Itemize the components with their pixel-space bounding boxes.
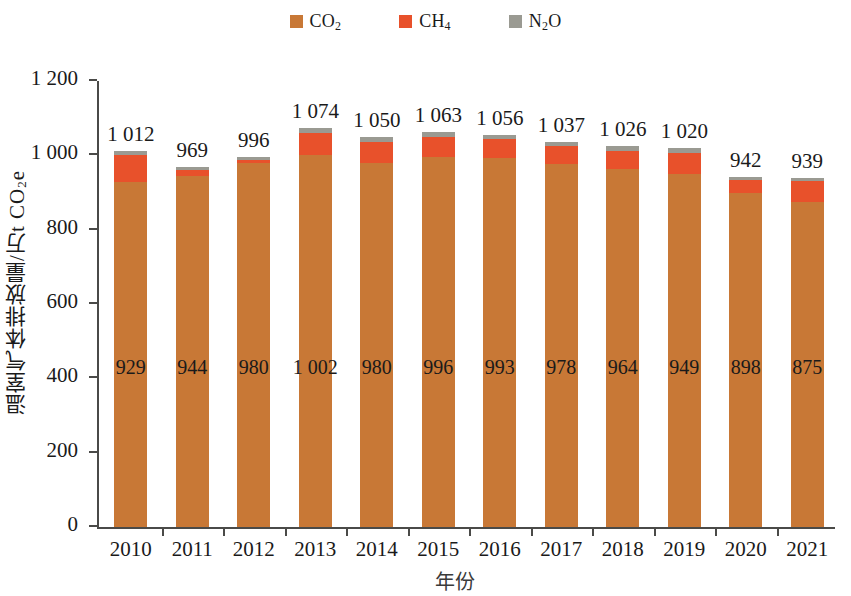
bar-segment-n2o[interactable] — [668, 148, 701, 153]
square-swatch-ch4 — [399, 15, 412, 28]
bar-segment-ch4[interactable] — [791, 181, 824, 201]
y-axis-tick-label: 600 — [47, 289, 79, 313]
bar-segment-co2[interactable] — [422, 157, 455, 527]
bar-total-label: 996 — [238, 129, 270, 151]
bar-segment-n2o[interactable] — [176, 167, 209, 170]
bar-co2-value-label: 944 — [177, 356, 207, 378]
bar-co2-value-label: 949 — [669, 356, 699, 378]
bar-co2-value-label: 875 — [792, 356, 822, 378]
bar-co2-value-label: 996 — [423, 356, 453, 378]
square-swatch-n2o — [509, 15, 522, 28]
chart-legend: CO2CH4N2O — [0, 8, 851, 34]
bar-segment-ch4[interactable] — [729, 180, 762, 194]
bar-segment-n2o[interactable] — [422, 132, 455, 137]
bar-group[interactable]: 1 012929 — [114, 151, 147, 527]
bar-group[interactable]: 1 050980 — [360, 137, 393, 527]
bar-group[interactable]: 996980 — [237, 157, 270, 527]
bar-total-label: 1 063 — [415, 104, 462, 126]
x-axis-tick-label: 2020 — [725, 537, 767, 562]
bar-segment-ch4[interactable] — [237, 160, 270, 163]
bar-segment-ch4[interactable] — [299, 133, 332, 155]
bar-total-label: 969 — [177, 139, 209, 161]
bar-segment-ch4[interactable] — [483, 139, 516, 158]
bar-total-label: 939 — [792, 150, 824, 172]
x-axis-title-text: 年份 — [377, 570, 475, 594]
bar-segment-n2o[interactable] — [114, 151, 147, 155]
bar-segment-n2o[interactable] — [606, 146, 639, 151]
y-axis-tick: 1 000 — [89, 153, 97, 155]
bar-co2-value-label: 964 — [608, 356, 638, 378]
x-axis-tick-label: 2011 — [172, 537, 213, 562]
bar-segment-n2o[interactable] — [791, 178, 824, 181]
y-axis-tick: 400 — [89, 376, 97, 378]
bar-segment-n2o[interactable] — [299, 128, 332, 133]
bar-co2-value-label: 978 — [546, 356, 576, 378]
y-axis-title: 温室气体排放量/万t CO2e — [2, 170, 32, 415]
bar-segment-co2[interactable] — [668, 174, 701, 527]
bar-group[interactable]: 939875 — [791, 178, 824, 527]
bar-segment-n2o[interactable] — [237, 157, 270, 160]
bar-group[interactable]: 969944 — [176, 167, 209, 527]
y-axis-tick: 800 — [89, 228, 97, 230]
y-axis-tick-label: 0 — [68, 512, 79, 536]
x-axis-tick-label: 2014 — [356, 537, 398, 562]
x-axis-tick-label: 2013 — [294, 537, 336, 562]
y-axis-tick: 200 — [89, 451, 97, 453]
bar-group[interactable]: 1 020949 — [668, 148, 701, 527]
bar-segment-ch4[interactable] — [360, 142, 393, 163]
bar-co2-value-label: 898 — [731, 356, 761, 378]
bar-total-label: 1 074 — [292, 100, 339, 122]
bar-co2-value-label: 980 — [362, 356, 392, 378]
x-axis-title: 年份 — [0, 566, 851, 595]
x-axis-tick-label: 2010 — [110, 537, 152, 562]
bar-group[interactable]: 1 026964 — [606, 146, 639, 527]
y-axis-tick-label: 400 — [47, 363, 79, 387]
bar-segment-ch4[interactable] — [606, 151, 639, 169]
bar-segment-ch4[interactable] — [176, 170, 209, 176]
x-axis-tick-label: 2012 — [233, 537, 275, 562]
legend-label: CO2 — [310, 11, 342, 32]
bar-group[interactable]: 1 063996 — [422, 132, 455, 527]
bar-segment-ch4[interactable] — [422, 137, 455, 157]
bar-co2-value-label: 993 — [485, 356, 515, 378]
bar-segment-co2[interactable] — [237, 163, 270, 527]
bar-segment-n2o[interactable] — [360, 137, 393, 142]
legend-label: N2O — [529, 11, 562, 32]
plot-area: 1 2001 0008006004002000 1 01292996994499… — [97, 81, 835, 527]
bar-group[interactable]: 1 056993 — [483, 135, 516, 527]
y-axis-tick-label: 200 — [47, 438, 79, 462]
bar-segment-n2o[interactable] — [545, 142, 578, 147]
bar-segment-co2[interactable] — [360, 163, 393, 527]
bar-total-label: 1 037 — [538, 114, 585, 136]
bar-segment-n2o[interactable] — [729, 177, 762, 180]
bar-total-label: 1 012 — [107, 123, 154, 145]
bar-group[interactable]: 1 037978 — [545, 142, 578, 527]
x-axis-tick-label: 2018 — [602, 537, 644, 562]
bar-segment-co2[interactable] — [114, 182, 147, 527]
bar-total-label: 1 056 — [476, 107, 523, 129]
bar-segment-ch4[interactable] — [114, 155, 147, 182]
bar-segment-co2[interactable] — [545, 164, 578, 527]
bar-segment-co2[interactable] — [483, 158, 516, 527]
y-axis-tick: 0 — [89, 525, 97, 527]
y-axis-tick-label: 1 200 — [31, 66, 78, 90]
bar-co2-value-label: 929 — [116, 356, 146, 378]
bar-segment-ch4[interactable] — [545, 146, 578, 163]
x-axis-tick-label: 2015 — [417, 537, 459, 562]
y-axis-tick-label: 800 — [47, 215, 79, 239]
legend-item-n2: N2O — [509, 11, 562, 32]
bar-segment-n2o[interactable] — [483, 135, 516, 140]
bar-total-label: 942 — [730, 149, 762, 171]
bar-segment-ch4[interactable] — [668, 153, 701, 175]
bar-group[interactable]: 1 0741 002 — [299, 128, 332, 527]
y-axis-line — [97, 81, 99, 528]
square-swatch-co2 — [290, 15, 303, 28]
bar-segment-co2[interactable] — [299, 155, 332, 527]
bar-segment-co2[interactable] — [176, 176, 209, 527]
bar-group[interactable]: 942898 — [729, 177, 762, 527]
bar-total-label: 1 020 — [661, 120, 708, 142]
bar-total-label: 1 026 — [599, 118, 646, 140]
y-axis-tick: 1 200 — [89, 79, 97, 81]
bar-segment-co2[interactable] — [606, 169, 639, 527]
bar-total-label: 1 050 — [353, 109, 400, 131]
